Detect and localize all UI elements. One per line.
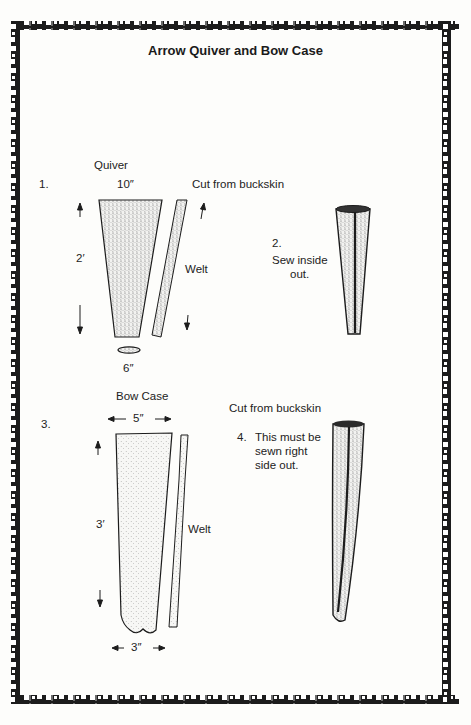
bowcase-length: 3′	[96, 518, 105, 530]
step-2-instruction-line1: Sew inside	[272, 254, 328, 266]
step-4-instruction-line1: This must be	[255, 431, 321, 443]
bowcase-top-width: 5″	[133, 412, 143, 424]
bowcase-material-note: Cut from buckskin	[229, 402, 321, 414]
quiver-label: Quiver	[94, 159, 128, 171]
bowcase-bottom-width: 3″	[131, 641, 141, 653]
bowcase-welt-label: Welt	[188, 523, 211, 535]
sewn-bowcase	[333, 421, 365, 622]
quiver-bottom-width: 6″	[123, 362, 133, 374]
document-page: Arrow Quiver and Bow Case	[0, 0, 471, 725]
sewn-quiver	[336, 206, 370, 335]
quiver-base-oval	[118, 347, 140, 353]
step-3-number: 3.	[41, 418, 51, 430]
quiver-material-note: Cut from buckskin	[192, 178, 284, 190]
bowcase-pattern-piece	[116, 433, 172, 633]
step-4-instruction-line2: sewn right	[255, 445, 307, 457]
step-2-instruction-line2: out.	[290, 268, 309, 280]
quiver-top-width: 10″	[117, 178, 134, 190]
bowcase-welt-strip	[169, 435, 188, 627]
step-1-number: 1.	[39, 178, 49, 190]
quiver-welt-label: Welt	[185, 263, 208, 275]
step-4-number: 4.	[237, 431, 247, 443]
quiver-length: 2′	[76, 252, 85, 264]
quiver-pattern-piece	[99, 200, 162, 337]
bowcase-label: Bow Case	[116, 390, 168, 402]
pattern-illustrations	[0, 0, 471, 725]
step-4-instruction-line3: side out.	[255, 459, 298, 471]
step-2-number: 2.	[272, 237, 282, 249]
